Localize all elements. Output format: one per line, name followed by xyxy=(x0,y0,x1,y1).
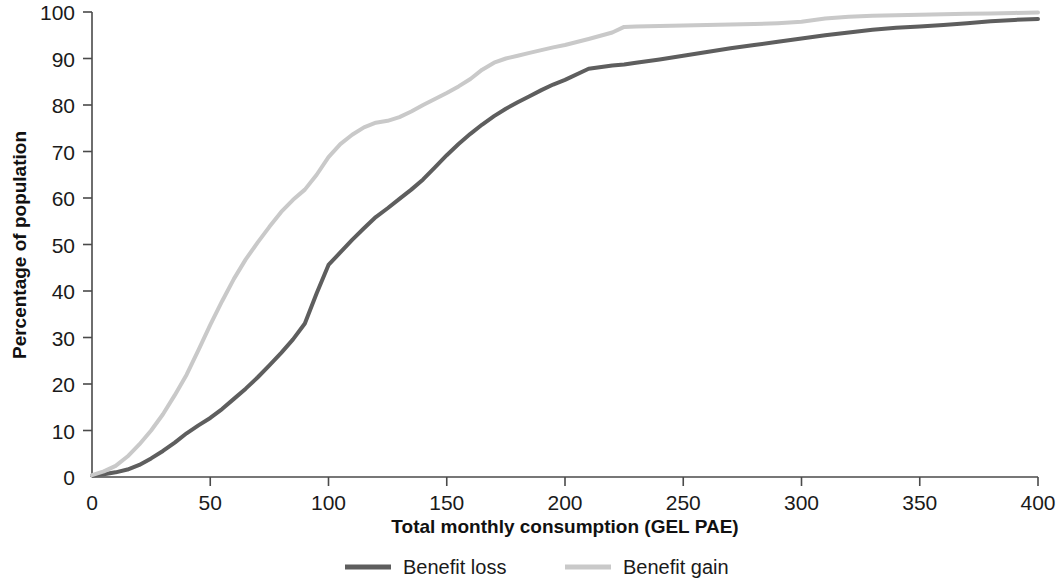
y-axis-title: Percentage of population xyxy=(9,131,30,359)
legend-label-benefit-loss: Benefit loss xyxy=(403,556,506,578)
legend-label-benefit-gain: Benefit gain xyxy=(623,556,729,578)
x-tick-label: 0 xyxy=(86,491,98,514)
x-tick-label: 50 xyxy=(199,491,222,514)
x-tick-label: 400 xyxy=(1020,491,1055,514)
chart-series xyxy=(92,12,1038,475)
y-tick-label: 40 xyxy=(52,280,75,303)
x-tick-label: 350 xyxy=(902,491,937,514)
x-tick-label: 150 xyxy=(429,491,464,514)
x-tick-label: 200 xyxy=(547,491,582,514)
y-tick-label: 80 xyxy=(52,94,75,117)
y-tick-label: 100 xyxy=(40,1,75,24)
x-tick-label: 250 xyxy=(666,491,701,514)
y-axis: 0102030405060708090100 xyxy=(40,1,92,489)
y-tick-label: 90 xyxy=(52,48,75,71)
y-tick-label: 50 xyxy=(52,234,75,257)
x-tick-label: 300 xyxy=(784,491,819,514)
y-tick-label: 10 xyxy=(52,420,75,443)
y-tick-label: 30 xyxy=(52,327,75,350)
line-chart: 0102030405060708090100 05010015020025030… xyxy=(0,0,1060,586)
x-tick-label: 100 xyxy=(311,491,346,514)
chart-legend: Benefit lossBenefit gain xyxy=(345,556,729,578)
x-axis: 050100150200250300350400 xyxy=(86,477,1055,514)
y-tick-label: 0 xyxy=(63,466,75,489)
y-tick-label: 60 xyxy=(52,187,75,210)
x-axis-title: Total monthly consumption (GEL PAE) xyxy=(391,516,738,537)
chart-figure: 0102030405060708090100 05010015020025030… xyxy=(0,0,1060,586)
series-line-benefit-loss xyxy=(92,19,1038,476)
y-tick-label: 20 xyxy=(52,373,75,396)
y-tick-label: 70 xyxy=(52,141,75,164)
